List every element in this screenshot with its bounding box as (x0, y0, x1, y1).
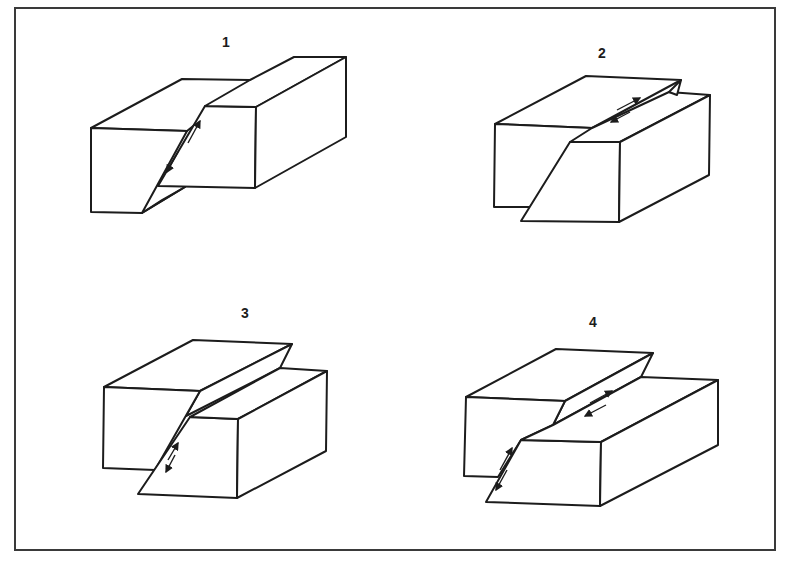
fault-block-2 (494, 76, 710, 222)
panel-label-2: 2 (598, 45, 606, 61)
panel-label-4: 4 (589, 314, 597, 330)
fault-block-1 (91, 57, 346, 213)
panel-label-3: 3 (241, 305, 249, 321)
fault-block-3 (103, 340, 327, 498)
fault-block-4 (464, 349, 718, 506)
panel-label-1: 1 (222, 34, 230, 50)
fault-diagrams (0, 0, 786, 563)
